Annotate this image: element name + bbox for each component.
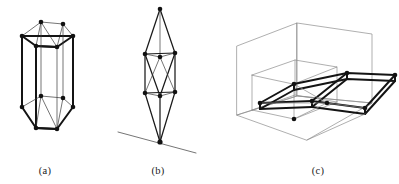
panel-a-vertical-edges [22, 22, 73, 129]
panel-b-ground-line [118, 132, 196, 153]
panel-a-top-back-edges [22, 22, 73, 47]
panel-b-lower-edges [145, 92, 175, 142]
panel-a-top-front-edges [22, 36, 73, 47]
caption-subfigure-b: (b) [120, 165, 196, 176]
subfigure-c-slab-in-box [232, 0, 399, 165]
subfigure-b-antiprism [130, 0, 210, 165]
caption-subfigure-a: (a) [0, 165, 90, 176]
panel-a-bottom-edges [22, 96, 73, 129]
panel-b-upper-edges [145, 9, 175, 57]
subfigure-a-hexagonal-prism [0, 0, 100, 160]
figure-root: (a) (b) (c) [0, 0, 399, 184]
caption-subfigure-c: (c) [275, 165, 361, 176]
panel-b-band-edges [145, 53, 175, 96]
